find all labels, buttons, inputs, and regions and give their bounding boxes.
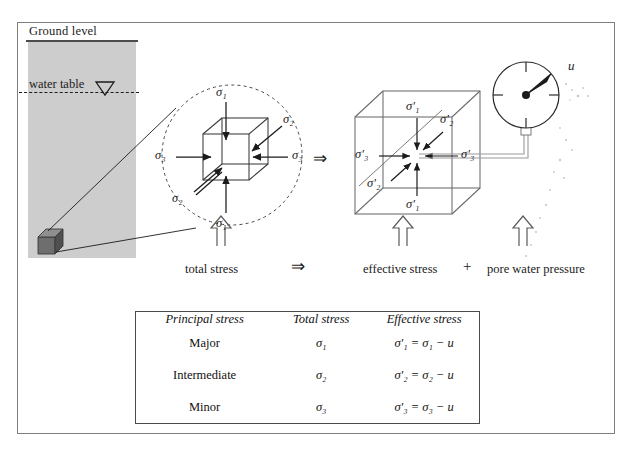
label-sigma1-bottom: σ₁ bbox=[216, 216, 227, 231]
pressure-gauge-icon bbox=[493, 62, 559, 128]
label-sigma2-front: σ₂ bbox=[172, 191, 183, 206]
th-total-stress: Total stress bbox=[273, 312, 369, 327]
cell-effective: σ′₂ = σ₂ − u bbox=[369, 359, 479, 391]
label-sigma1-eff-bottom: σ′₁ bbox=[406, 197, 419, 212]
caption-effective-stress: effective stress bbox=[363, 262, 437, 277]
cell-principal: Intermediate bbox=[136, 359, 273, 391]
stage-up-arrows bbox=[211, 216, 533, 246]
label-sigma3-right: σ₃ bbox=[292, 148, 303, 163]
cell-effective: σ′₁ = σ₁ − u bbox=[369, 327, 479, 359]
water-table-triangle-icon bbox=[96, 82, 114, 95]
caption-total-stress: total stress bbox=[185, 262, 238, 277]
cell-total: σ₁ bbox=[273, 327, 369, 359]
table-row: Major σ₁ σ′₁ = σ₁ − u bbox=[136, 327, 479, 359]
operator-implies-lower: ⇒ bbox=[291, 256, 305, 277]
total-stress-arrows bbox=[176, 102, 288, 213]
caption-pore-water-pressure: pore water pressure bbox=[487, 262, 585, 277]
soil-element-cube-icon bbox=[38, 229, 63, 254]
operator-implies-upper: ⇒ bbox=[313, 148, 327, 169]
cell-total: σ₃ bbox=[273, 391, 369, 423]
stress-diagram-figure: Ground level water table bbox=[0, 0, 634, 451]
magnifier-leader-lines bbox=[48, 108, 196, 252]
label-sigma2-back: σ₂ bbox=[283, 112, 294, 127]
label-sigma2-eff-front: σ′₂ bbox=[367, 176, 380, 191]
table-row: Intermediate σ₂ σ′₂ = σ₂ − u bbox=[136, 359, 479, 391]
label-sigma3-left: σ₃ bbox=[155, 148, 166, 163]
label-sigma3-eff-left: σ′₃ bbox=[355, 147, 368, 162]
cell-effective: σ′₃ = σ₃ − u bbox=[369, 391, 479, 423]
magnifier-circle bbox=[162, 85, 302, 225]
cell-total: σ₂ bbox=[273, 359, 369, 391]
label-sigma1-eff-top: σ′₁ bbox=[406, 99, 419, 114]
label-sigma1-top: σ₁ bbox=[216, 85, 227, 100]
cell-principal: Major bbox=[136, 327, 273, 359]
th-effective-stress: Effective stress bbox=[369, 312, 479, 327]
label-sigma2-eff-back: σ′₂ bbox=[440, 112, 453, 127]
label-sigma3-eff-right: σ′₃ bbox=[461, 147, 474, 162]
table-row: Minor σ₃ σ′₃ = σ₃ − u bbox=[136, 391, 479, 423]
pore-pressure-tube bbox=[419, 126, 531, 158]
table-header-row: Principal stress Total stress Effective … bbox=[136, 312, 479, 327]
operator-plus: + bbox=[463, 258, 471, 275]
label-pore-pressure-u: u bbox=[568, 58, 575, 74]
stress-summary-table: Principal stress Total stress Effective … bbox=[135, 311, 480, 424]
total-stress-cube bbox=[203, 118, 268, 180]
cell-principal: Minor bbox=[136, 391, 273, 423]
th-principal-stress: Principal stress bbox=[136, 312, 273, 327]
